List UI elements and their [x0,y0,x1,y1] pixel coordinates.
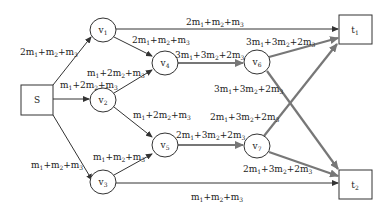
edge-label-s-v3: m1+m2+m3 [31,160,83,171]
edge-label-v3-v5: m1+m2+m3 [93,152,145,163]
network-coding-diagram: S v1 v2 v3 v4 v5 v6 v7 t1 t2 2m1+m2+m3 m… [0,0,392,212]
edge-label-v1-t1: 2m1+m2+m3 [186,17,244,28]
edge-label-v6-t1: 3m1+3m2+2m3 [246,37,316,48]
edge-labels: 2m1+m2+m3 m1+2m2+m3 m1+m2+m3 2m1+m2+m3 2… [20,17,316,203]
node-label-s: S [34,95,40,105]
edge-label-v2-v4: m1+2m2+m3 [87,68,145,79]
edge-label-v5-v7: 2m1+3m2+2m3 [176,130,246,141]
edge-label-v6-t2: 3m1+3m2+2m3 [214,84,284,95]
edge-label-v7-t1: 2m1+3m2+2m3 [210,112,280,123]
edge-label-v7-t2: 2m1+3m2+2m3 [243,164,313,175]
diagram-svg: S v1 v2 v3 v4 v5 v6 v7 t1 t2 2m1+m2+m3 m… [0,0,392,212]
edge-label-v3-t2: m1+m2+m3 [191,192,243,203]
edge-label-v4-v6: 3m1+3m2+2m3 [175,50,245,61]
edge-label-s-v2: m1+2m2+m3 [60,80,118,91]
edge-label-v2-v5: m1+2m2+m3 [133,110,191,121]
edge-label-v1-v4: 2m1+m2+m3 [132,35,190,46]
edge-label-s-v1: 2m1+m2+m3 [20,47,78,58]
edge-s-v1 [53,37,91,85]
